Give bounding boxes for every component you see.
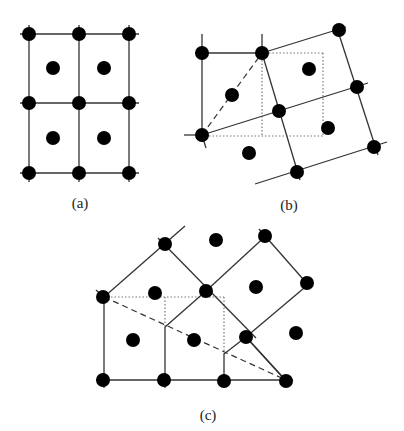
panel-b-label: (b) [280, 197, 298, 214]
lattice-point [255, 46, 269, 60]
lattice-point [187, 333, 201, 347]
lattice-point [157, 373, 171, 387]
lattice-point [272, 104, 286, 118]
lattice-point [158, 237, 172, 251]
lattice-point [302, 62, 316, 76]
lattice-point [148, 286, 162, 300]
lattice-point [321, 121, 335, 135]
lattice-point [126, 333, 140, 347]
lattice-point [46, 61, 60, 75]
lattice-figure: (a) (b) (c) [0, 0, 404, 431]
lattice-point [249, 280, 263, 294]
lattice-point [122, 96, 136, 110]
lattice-point [97, 61, 111, 75]
lattice-point [350, 80, 364, 94]
lattice-point [258, 229, 272, 243]
lattice-point [72, 96, 86, 110]
panel-c-label: (c) [200, 407, 217, 424]
lattice-point [332, 23, 346, 37]
lattice-point [22, 166, 36, 180]
panel-a-label: (a) [72, 195, 89, 212]
lattice-point [72, 27, 86, 41]
lattice-point [290, 165, 304, 179]
lattice-point [195, 46, 209, 60]
lattice-point [289, 326, 303, 340]
lattice-point [225, 88, 239, 102]
lattice-point [22, 27, 36, 41]
lattice-point [279, 374, 293, 388]
lattice-point [97, 131, 111, 145]
lattice-point [46, 131, 60, 145]
lattice-point [300, 276, 314, 290]
lattice-point [122, 166, 136, 180]
lattice-point [22, 96, 36, 110]
lattice-point [209, 233, 223, 247]
lattice-point [96, 290, 110, 304]
lattice-point [367, 140, 381, 154]
lattice-point [122, 27, 136, 41]
lattice-point [96, 373, 110, 387]
lattice-point [217, 374, 231, 388]
lattice-point [242, 146, 256, 160]
lattice-point [199, 284, 213, 298]
lattice-point [239, 330, 253, 344]
lattice-point [72, 166, 86, 180]
lattice-point [195, 128, 209, 142]
